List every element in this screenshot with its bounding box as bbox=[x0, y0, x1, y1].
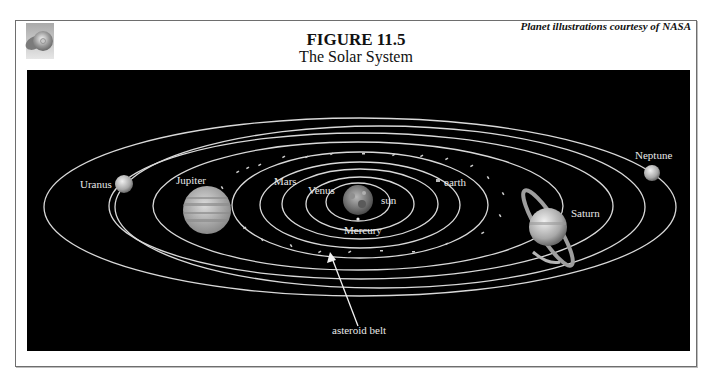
saturn-planet bbox=[516, 185, 580, 270]
earth-planet bbox=[436, 179, 440, 182]
label-asteroid-belt: asteroid belt bbox=[332, 324, 386, 336]
neptune-planet bbox=[644, 165, 660, 181]
label-saturn: Saturn bbox=[571, 207, 600, 219]
label-mars: Mars bbox=[274, 175, 297, 187]
label-neptune: Neptune bbox=[635, 149, 672, 161]
solar-system-diagram: Uranus Jupiter Mars Venus sun Mercury ea… bbox=[0, 0, 712, 377]
label-uranus: Uranus bbox=[80, 178, 112, 190]
asteroid-belt-arrow bbox=[327, 252, 358, 326]
label-jupiter: Jupiter bbox=[176, 174, 206, 186]
label-earth: earth bbox=[444, 176, 466, 188]
label-mercury: Mercury bbox=[344, 224, 382, 236]
mercury-planet bbox=[356, 217, 359, 220]
uranus-planet bbox=[115, 175, 133, 193]
label-sun: sun bbox=[381, 194, 397, 206]
label-venus: Venus bbox=[308, 184, 335, 196]
sun bbox=[343, 185, 373, 215]
jupiter-planet bbox=[180, 186, 236, 234]
